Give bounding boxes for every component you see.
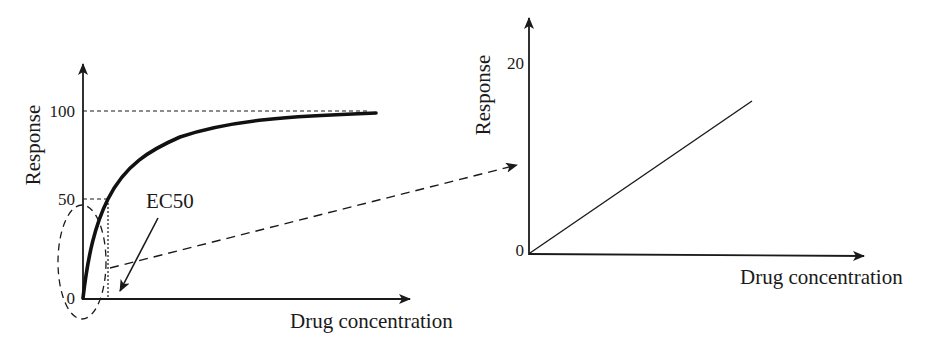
zoom-connector-arrow	[110, 165, 517, 268]
linear-response-line	[530, 101, 752, 253]
dose-response-figure: 100 50 0 Response Drug concentration EC5…	[0, 0, 934, 349]
right-y-axis-label: Response	[471, 55, 495, 136]
right-tick-0: 0	[516, 241, 525, 260]
right-x-axis-label: Drug concentration	[740, 265, 903, 289]
left-y-axis-label: Response	[21, 105, 45, 186]
dose-response-curve	[83, 113, 376, 298]
left-tick-50: 50	[58, 190, 75, 209]
left-panel: 100 50 0 Response Drug concentration EC5…	[21, 64, 453, 333]
right-x-axis	[529, 254, 864, 256]
ec50-pointer-arrow	[120, 218, 158, 291]
right-tick-20: 20	[507, 54, 524, 73]
left-x-axis-label: Drug concentration	[290, 309, 453, 333]
left-tick-100: 100	[50, 102, 76, 121]
ec50-label: EC50	[146, 189, 194, 213]
left-tick-0: 0	[67, 289, 76, 308]
right-panel: 20 0 Response Drug concentration	[471, 18, 903, 289]
